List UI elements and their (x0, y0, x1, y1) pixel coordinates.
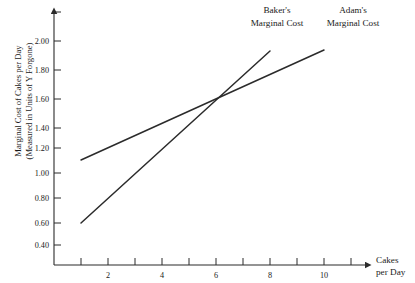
y-tick-label: 0.80 (35, 194, 49, 203)
series-line-adams-marginal-cost (81, 50, 324, 160)
x-tick-label: 8 (268, 271, 272, 280)
adams-label-line1: Adam's (339, 5, 367, 15)
label-bakers-marginal-cost: Baker's Marginal Cost (251, 5, 304, 28)
x-tick-label: 10 (320, 271, 328, 280)
y-tick-label: 1.40 (35, 124, 49, 133)
x-axis-ticks (81, 258, 351, 265)
chart-container: 2.00 1.80 1.60 1.40 1.20 1.00 0.80 0.60 … (0, 0, 415, 283)
bakers-label-line1: Baker's (263, 5, 291, 15)
x-axis-title-line2: per Day (376, 267, 406, 277)
x-axis-title: Cakes per Day (376, 255, 406, 277)
y-tick-label: 0.40 (35, 241, 49, 250)
y-axis-ticks (54, 12, 61, 245)
x-axis-title-line1: Cakes (376, 255, 399, 265)
x-tick-label: 2 (106, 271, 110, 280)
marginal-cost-line-chart: 2.00 1.80 1.60 1.40 1.20 1.00 0.80 0.60 … (0, 0, 415, 283)
adams-label-line2: Marginal Cost (327, 18, 380, 28)
x-tick-label: 4 (160, 271, 164, 280)
y-tick-label: 1.20 (35, 144, 49, 153)
y-tick-label: 2.00 (35, 37, 49, 46)
bakers-label-line2: Marginal Cost (251, 18, 304, 28)
label-adams-marginal-cost: Adam's Marginal Cost (327, 5, 380, 28)
y-tick-label: 0.60 (35, 219, 49, 228)
x-tick-label: 6 (214, 271, 218, 280)
y-tick-label: 1.60 (35, 95, 49, 104)
y-tick-label: 1.00 (35, 169, 49, 178)
y-axis-tick-labels: 2.00 1.80 1.60 1.40 1.20 1.00 0.80 0.60 … (35, 37, 49, 250)
x-axis-tick-labels: 2 4 6 8 10 (106, 271, 328, 280)
series-line-bakers-marginal-cost (81, 51, 270, 223)
y-tick-label: 1.80 (35, 66, 49, 75)
